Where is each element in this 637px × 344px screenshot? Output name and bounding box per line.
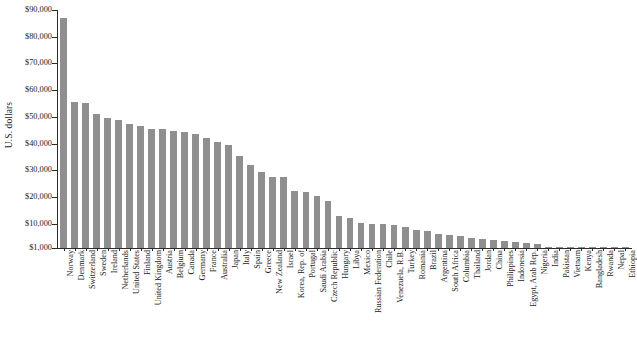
- x-axis-tick: [559, 249, 560, 251]
- x-axis-tick: [295, 249, 296, 251]
- x-axis-tick-label-wrap: Japan: [232, 250, 240, 269]
- bar: [291, 191, 298, 248]
- bar: [468, 238, 475, 248]
- x-axis-tick-label-wrap: Argentina: [441, 250, 449, 283]
- x-axis-tick-label-wrap: Jordan: [485, 250, 493, 272]
- x-axis-tick: [504, 249, 505, 251]
- x-axis-tick-label: Jordan: [485, 250, 493, 272]
- bar: [347, 218, 354, 248]
- x-axis-tick-label-wrap: United States: [133, 250, 141, 294]
- bar: [402, 227, 409, 248]
- x-axis-tick-label-wrap: Australia: [221, 250, 229, 280]
- x-axis-tick: [328, 249, 329, 251]
- x-axis-tick: [471, 249, 472, 251]
- x-axis-tick-label: United Kingdom: [155, 250, 163, 305]
- x-axis-tick: [64, 249, 65, 251]
- x-axis-tick: [119, 249, 120, 251]
- y-axis-tick-label: $1,000: [4, 244, 52, 252]
- bar: [269, 177, 276, 248]
- bar: [578, 247, 585, 248]
- x-axis-tick-label-wrap: Bangladesh: [596, 250, 604, 288]
- x-axis-tick: [262, 249, 263, 251]
- bar: [413, 230, 420, 248]
- x-axis-tick-label-wrap: Brazil: [430, 250, 438, 270]
- x-axis-tick-label-wrap: Nigeria: [541, 250, 549, 275]
- x-axis-tick: [570, 249, 571, 251]
- y-axis-tick-label: $40,000: [4, 140, 52, 148]
- x-axis-tick-label-wrap: Czech Republic: [331, 250, 339, 302]
- x-axis-tick: [108, 249, 109, 251]
- x-axis-tick-label: Thailand: [474, 250, 482, 279]
- y-axis-tick-label: $70,000: [4, 59, 52, 67]
- bar: [446, 235, 453, 248]
- x-axis-tick-label: Norway: [67, 250, 75, 276]
- x-axis-tick-label-wrap: Libya: [353, 250, 361, 269]
- x-axis-tick-label-wrap: China: [496, 250, 504, 270]
- x-axis-tick: [152, 249, 153, 251]
- x-axis-tick: [163, 249, 164, 251]
- y-axis-tick: [52, 90, 58, 91]
- bar: [523, 243, 530, 248]
- x-axis-tick-label: Belgium: [177, 250, 185, 278]
- x-axis-tick: [603, 249, 604, 251]
- x-axis-tick: [141, 249, 142, 251]
- y-axis-tick: [52, 37, 58, 38]
- x-axis-tick-label: Japan: [232, 250, 240, 269]
- x-axis-tick-label-wrap: Israel: [287, 250, 295, 268]
- bar: [126, 124, 133, 248]
- x-axis-tick-label: Portugal: [309, 250, 317, 278]
- x-axis-tick-label: Australia: [221, 250, 229, 280]
- y-axis-tick: [52, 10, 58, 11]
- x-axis-tick-label-wrap: Canada: [188, 250, 196, 275]
- x-axis-tick-label: Greece: [265, 250, 273, 273]
- x-axis-tick-label: Canada: [188, 250, 196, 275]
- x-axis-tick-label: Denmark: [78, 250, 86, 280]
- x-axis-tick: [372, 249, 373, 251]
- y-axis-tick-label: $90,000: [4, 6, 52, 14]
- x-axis-tick-label: Germany: [199, 250, 207, 280]
- x-axis-tick-label-wrap: Columbia: [463, 250, 471, 282]
- bar: [512, 242, 519, 248]
- x-axis-tick-label-wrap: Turkey: [408, 250, 416, 273]
- x-axis-tick: [493, 249, 494, 251]
- x-axis-tick: [229, 249, 230, 251]
- x-axis-tick-label: Hungary: [342, 250, 350, 279]
- x-axis-tick-label: Ireland: [111, 250, 119, 273]
- x-axis-tick-label: Sweden: [100, 250, 108, 276]
- x-axis-tick-labels: NorwayDenmarkSwitzerlandSwedenIrelandNet…: [58, 250, 631, 344]
- x-axis-tick: [526, 249, 527, 251]
- x-axis-tick-label-wrap: Egypt, Arab Rep.: [530, 250, 538, 307]
- x-axis-tick-label: Ethiopia: [629, 250, 637, 278]
- x-axis-tick: [218, 249, 219, 251]
- y-axis-tick-label: $10,000: [4, 220, 52, 228]
- x-axis-tick-label-wrap: Portugal: [309, 250, 317, 278]
- x-axis-tick-label: Saudi Arabia: [320, 250, 328, 293]
- x-axis-tick: [515, 249, 516, 251]
- bar: [225, 145, 232, 248]
- x-axis-tick-label-wrap: Russian Federation: [375, 250, 383, 313]
- x-axis-tick-label: Finland: [144, 250, 152, 275]
- bar: [181, 132, 188, 248]
- bar: [358, 223, 365, 248]
- x-axis-tick-label: Bangladesh: [596, 250, 604, 288]
- x-axis-tick-label: Netherlands: [122, 250, 130, 290]
- x-axis-tick: [427, 249, 428, 251]
- bar: [236, 156, 243, 248]
- x-axis-tick-label: South Africa: [452, 250, 460, 292]
- x-axis-tick-label-wrap: Italy: [243, 250, 251, 265]
- x-axis-tick-label: Venezuela, R.B.: [397, 250, 405, 303]
- x-axis-tick: [482, 249, 483, 251]
- x-axis-tick-label: Russian Federation: [375, 250, 383, 313]
- bar: [314, 196, 321, 248]
- x-axis-tick-label-wrap: Pakistan: [563, 250, 571, 278]
- bar: [457, 236, 464, 248]
- y-axis-tick: [52, 170, 58, 171]
- x-axis-tick-label-wrap: Vietnam: [574, 250, 582, 278]
- x-axis-tick-label-wrap: Rwanda: [607, 250, 615, 277]
- bar: [589, 247, 596, 248]
- y-axis-tick-label: $60,000: [4, 86, 52, 94]
- bar: [567, 247, 574, 248]
- bar: [622, 247, 629, 248]
- bar: [159, 129, 166, 248]
